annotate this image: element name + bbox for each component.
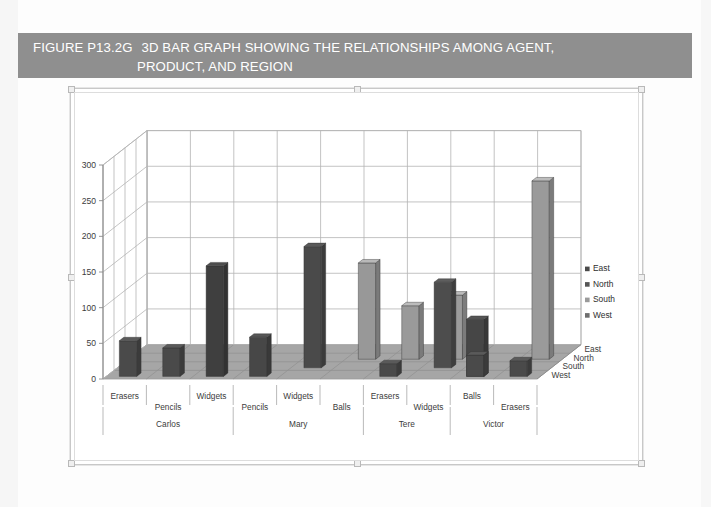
legend-swatch bbox=[585, 267, 590, 272]
value-tick-label: 150 bbox=[82, 267, 97, 277]
product-label: Pencils bbox=[242, 402, 269, 412]
document-page: FIGURE P13.2G3D BAR GRAPH SHOWING THE RE… bbox=[0, 0, 711, 507]
agent-label: Tere bbox=[399, 419, 416, 429]
bar-front-face bbox=[250, 337, 267, 376]
value-tick-label: 200 bbox=[82, 231, 97, 241]
page-left-margin bbox=[0, 0, 18, 507]
bar-3d bbox=[467, 352, 489, 377]
bar-front-face bbox=[304, 247, 321, 368]
bar-3d bbox=[402, 302, 424, 359]
legend-swatch bbox=[585, 313, 590, 318]
bar-front-face bbox=[532, 181, 549, 359]
legend-swatch bbox=[585, 298, 590, 303]
legend-label: North bbox=[593, 279, 614, 289]
resize-handle-top-right[interactable] bbox=[638, 86, 645, 93]
figure-caption-text-1: 3D BAR GRAPH SHOWING THE RELATIONSHIPS A… bbox=[142, 40, 555, 55]
figure-number: FIGURE P13.2G bbox=[33, 40, 133, 55]
bar-side-face bbox=[462, 292, 466, 360]
bar-front-face bbox=[380, 364, 397, 377]
bar-side-face bbox=[376, 259, 380, 359]
bar-side-face bbox=[419, 302, 423, 359]
bar-side-face bbox=[267, 334, 271, 377]
bar-3d bbox=[358, 259, 380, 359]
product-label: Erasers bbox=[110, 391, 139, 401]
agent-label: Victor bbox=[483, 419, 504, 429]
bar-front-face bbox=[434, 282, 451, 368]
bar-side-face bbox=[484, 352, 488, 377]
bar-side-face bbox=[451, 279, 455, 368]
figure-caption-line-1: FIGURE P13.2G3D BAR GRAPH SHOWING THE RE… bbox=[28, 38, 692, 57]
bar-3d bbox=[434, 279, 456, 368]
bar-front-face bbox=[402, 306, 419, 360]
bar-side-face bbox=[223, 262, 227, 376]
bar-front-face bbox=[163, 348, 180, 377]
value-tick-label: 50 bbox=[86, 338, 96, 348]
bar-front-face bbox=[119, 341, 136, 377]
chart-object-frame[interactable]: 050100150200250300ErasersPencilsWidgetsP… bbox=[70, 88, 643, 465]
bar-chart-3d: 050100150200250300ErasersPencilsWidgetsP… bbox=[75, 93, 640, 462]
resize-handle-bottom-left[interactable] bbox=[68, 460, 75, 467]
bar-3d bbox=[532, 177, 554, 359]
bar-3d bbox=[510, 357, 532, 376]
value-tick-label: 300 bbox=[82, 160, 97, 170]
bar-3d bbox=[304, 243, 326, 368]
product-label: Pencils bbox=[155, 402, 182, 412]
page-right-margin bbox=[701, 0, 711, 507]
value-tick-label: 100 bbox=[82, 303, 97, 313]
legend-label: South bbox=[593, 294, 615, 304]
value-tick-label: 0 bbox=[91, 374, 96, 384]
product-label: Erasers bbox=[371, 391, 400, 401]
figure-caption-banner: FIGURE P13.2G3D BAR GRAPH SHOWING THE RE… bbox=[18, 33, 692, 78]
product-label: Widgets bbox=[414, 402, 444, 412]
region-label: West bbox=[552, 370, 571, 380]
bar-front-face bbox=[467, 355, 484, 376]
bar-3d bbox=[119, 337, 141, 376]
agent-label: Carlos bbox=[156, 419, 180, 429]
product-label: Balls bbox=[463, 391, 481, 401]
legend-swatch bbox=[585, 282, 590, 287]
value-tick-label: 250 bbox=[82, 196, 97, 206]
bar-side-face bbox=[180, 344, 184, 376]
bar-side-face bbox=[321, 243, 325, 368]
legend-label: West bbox=[593, 310, 613, 320]
bar-side-face bbox=[137, 337, 141, 376]
figure-caption-line-2: PRODUCT, AND REGION bbox=[28, 57, 692, 76]
bar-side-face bbox=[549, 177, 553, 359]
bar-front-face bbox=[510, 361, 527, 377]
legend-label: East bbox=[593, 263, 610, 273]
bar-front-face bbox=[206, 266, 223, 377]
bar-3d bbox=[206, 262, 228, 376]
bar-3d bbox=[250, 334, 272, 377]
bar-3d bbox=[380, 360, 402, 376]
product-label: Widgets bbox=[197, 391, 227, 401]
chart-plot-container: 050100150200250300ErasersPencilsWidgetsP… bbox=[74, 92, 639, 461]
product-label: Balls bbox=[333, 402, 351, 412]
bar-front-face bbox=[358, 263, 375, 359]
agent-label: Mary bbox=[289, 419, 308, 429]
product-label: Widgets bbox=[283, 391, 313, 401]
product-label: Erasers bbox=[501, 402, 530, 412]
bar-3d bbox=[163, 344, 185, 376]
